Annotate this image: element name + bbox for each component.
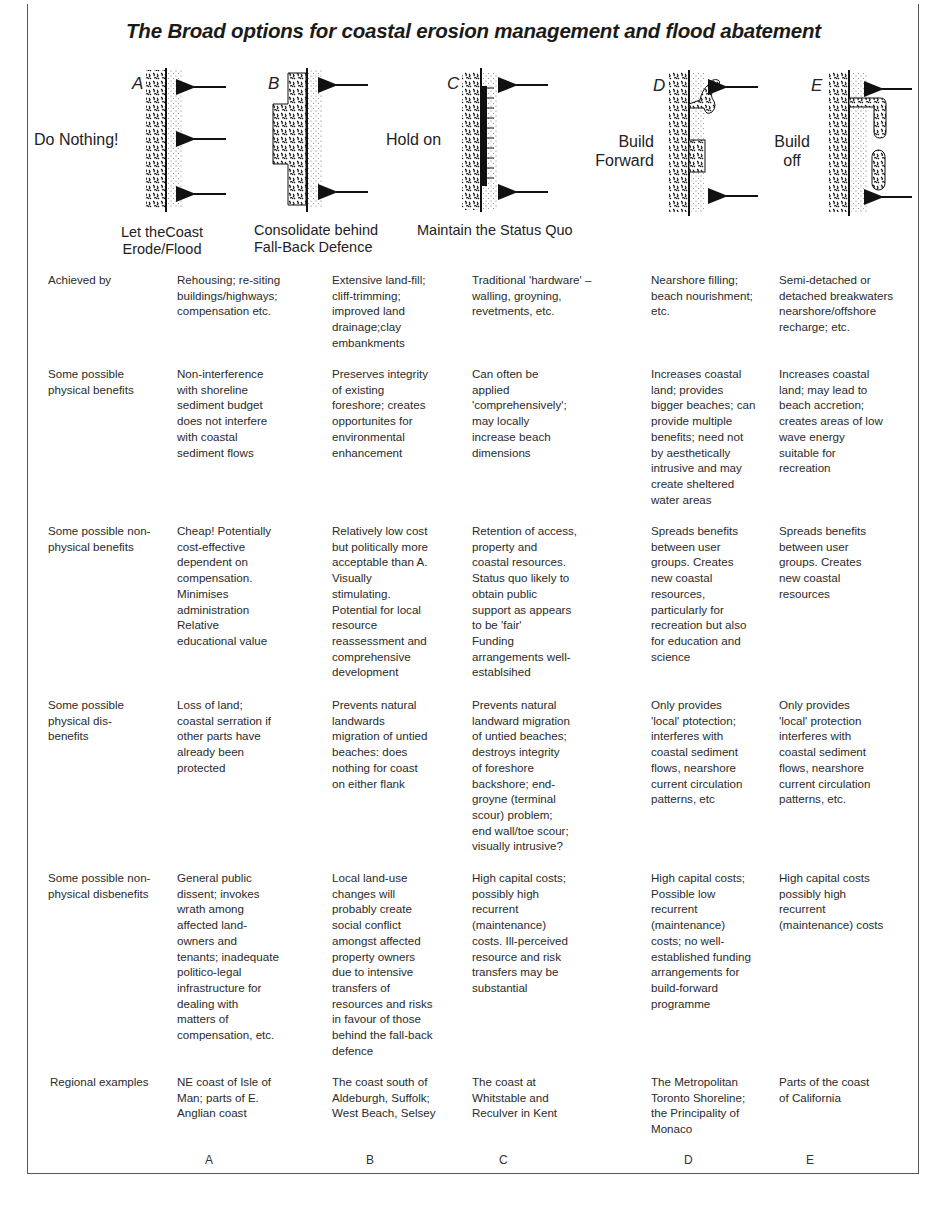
cell-a: Cheap! Potentially cost-effective depend…	[177, 523, 322, 649]
row-label: Some possible physical dis- benefits	[48, 697, 163, 744]
diagram-d	[669, 70, 758, 216]
row-label: Some possible physical benefits	[48, 366, 163, 397]
side-label-hold-on: Hold on	[386, 130, 441, 149]
column-letter-c: C	[499, 1153, 508, 1167]
diagram-letter-c: C	[447, 74, 459, 93]
cell-c: High capital costs; possibly high recurr…	[472, 870, 602, 996]
side-label-build-forward: Build Forward	[580, 132, 654, 170]
diagram-c	[462, 68, 548, 212]
cell-c: Can often be applied 'comprehensively'; …	[472, 366, 602, 460]
side-label-do-nothing: Do Nothing!	[34, 130, 119, 149]
diagram-letter-d: D	[653, 76, 665, 95]
cell-d: Only provides 'local' ptotection; interf…	[651, 697, 771, 807]
cell-a: General public dissent; invokes wrath am…	[177, 870, 322, 1043]
cell-e: Semi-detached or detached breakwaters ne…	[779, 272, 909, 335]
column-letter-d: D	[684, 1153, 693, 1167]
caption-let-coast-erode: Let theCoast Erode/Flood	[110, 224, 214, 258]
row-label: Achieved by	[48, 272, 163, 288]
cell-e: Spreads benefits between user groups. Cr…	[779, 523, 909, 602]
cell-b: Local land-use changes will probably cre…	[332, 870, 462, 1058]
row-label: Some possible non- physical benefits	[48, 523, 163, 554]
diagram-b	[273, 68, 368, 212]
cell-a: Non-interference with shoreline sediment…	[177, 366, 322, 460]
caption-consolidate: Consolidate behind Fall-Back Defence	[254, 222, 404, 256]
cell-b: Relatively low cost but politically more…	[332, 523, 462, 680]
cell-b: The coast south of Aldeburgh, Suffolk; W…	[332, 1074, 462, 1121]
diagram-letter-e: E	[811, 76, 822, 95]
cell-c: Traditional 'hardware' – walling, groyni…	[472, 272, 602, 319]
cell-a: Loss of land; coastal serration if other…	[177, 697, 322, 776]
diagram-letter-a: A	[132, 74, 143, 93]
caption-status-quo: Maintain the Status Quo	[417, 222, 597, 239]
diagram-a	[146, 68, 226, 212]
cell-b: Prevents natural landwards migration of …	[332, 697, 462, 791]
cell-d: Spreads benefits between user groups. Cr…	[651, 523, 771, 664]
cell-d: The Metropolitan Toronto Shoreline; the …	[651, 1074, 771, 1137]
side-label-build-off: Build off	[770, 132, 814, 170]
column-letter-a: A	[205, 1153, 213, 1167]
row-label: Regional examples	[50, 1074, 165, 1090]
cell-e: Only provides 'local' protection interfe…	[779, 697, 909, 807]
cell-d: High capital costs; Possible low recurre…	[651, 870, 771, 1011]
cell-d: Increases coastal land; provides bigger …	[651, 366, 771, 507]
column-letter-b: B	[366, 1153, 374, 1167]
diagram-e	[829, 70, 912, 216]
cell-c: The coast at Whitstable and Reculver in …	[472, 1074, 602, 1121]
diagram-letter-b: B	[268, 74, 279, 93]
cell-c: Prevents natural landward migration of u…	[472, 697, 602, 854]
cell-a: Rehousing; re-siting buildings/highways;…	[177, 272, 322, 319]
cell-a: NE coast of Isle of Man; parts of E. Ang…	[177, 1074, 322, 1121]
row-label: Some possible non- physical disbenefits	[48, 870, 163, 901]
cell-e: High capital costs possibly high recurre…	[779, 870, 909, 933]
cell-b: Preserves integrity of existing foreshor…	[332, 366, 462, 460]
page-title: The Broad options for coastal erosion ma…	[0, 19, 947, 43]
cell-b: Extensive land-fill; cliff-trimming; imp…	[332, 272, 462, 351]
cell-d: Nearshore filling; beach nourishment; et…	[651, 272, 771, 319]
cell-c: Retention of access, property and coasta…	[472, 523, 602, 680]
cell-e: Increases coastal land; may lead to beac…	[779, 366, 909, 476]
column-letter-e: E	[806, 1153, 814, 1167]
cell-e: Parts of the coast of California	[779, 1074, 909, 1105]
